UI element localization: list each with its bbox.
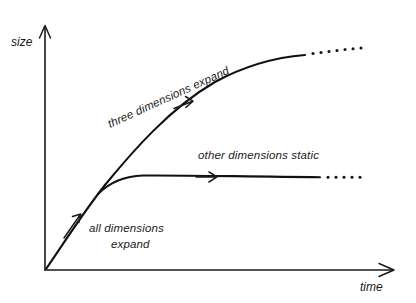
- diagram-canvas: three dimensions expand other dimensions…: [0, 0, 416, 303]
- other-dimensions-static-dotted-continuation: [327, 176, 362, 179]
- other-dimensions-static-arrowhead: [196, 172, 217, 182]
- time-axis-label: time: [360, 280, 383, 294]
- all-dimensions-expand-arrowhead: [64, 214, 81, 238]
- upper-curve-label: three dimensions expand: [106, 64, 231, 130]
- lower-curve-group: [98, 172, 362, 194]
- size-axis-label: size: [11, 35, 33, 49]
- other-dimensions-static-curve: [98, 175, 320, 194]
- growth-curve-diagram: three dimensions expand other dimensions…: [0, 0, 416, 303]
- time-axis: [45, 264, 394, 277]
- shared-curve-label-line1: all dimensions: [89, 222, 164, 234]
- lower-curve-label: other dimensions static: [198, 149, 319, 161]
- three-dimensions-expand-dotted-continuation: [312, 47, 363, 56]
- size-axis: [40, 26, 51, 271]
- shared-curve-label-line2: expand: [111, 238, 150, 250]
